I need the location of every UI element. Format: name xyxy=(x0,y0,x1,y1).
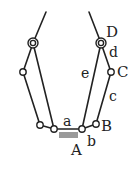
joint-A xyxy=(79,126,85,132)
left-bottom-outer-joint xyxy=(37,122,43,128)
left-inner-link xyxy=(33,43,54,129)
left-link-mid-bottom xyxy=(23,72,40,125)
label-C: C xyxy=(117,63,128,81)
left-mid-joint xyxy=(20,69,26,75)
linkage-diagram: D d C e c a B b A xyxy=(0,0,140,171)
label-B: B xyxy=(101,117,112,135)
ground-block xyxy=(59,132,78,138)
label-D: D xyxy=(106,23,118,41)
left-top-joint-inner xyxy=(30,40,35,45)
joint-D-inner xyxy=(98,40,103,45)
label-e: e xyxy=(81,65,89,81)
label-c: c xyxy=(109,88,117,104)
left-bottom-inner-joint xyxy=(51,126,57,132)
label-a: a xyxy=(63,113,71,129)
label-d: d xyxy=(109,44,118,60)
label-A: A xyxy=(70,141,82,159)
joint-C xyxy=(108,69,114,75)
label-b: b xyxy=(87,133,96,149)
joint-B xyxy=(93,121,99,127)
